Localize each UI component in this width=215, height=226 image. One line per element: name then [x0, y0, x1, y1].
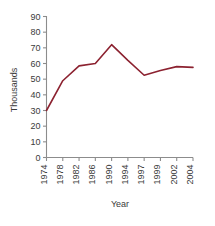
plot-area	[47, 45, 194, 111]
x-tick-label: 1997	[136, 165, 146, 185]
y-tick-label: 90	[30, 12, 40, 22]
x-tick-label: 1990	[104, 165, 114, 185]
y-tick-label: 10	[30, 137, 40, 147]
chart-container: 0102030405060708090 19741978198219861990…	[0, 0, 215, 226]
y-axis-title: Thousands	[9, 67, 19, 112]
y-tick-label: 30	[30, 106, 40, 116]
x-axis-title: Year	[111, 199, 129, 209]
data-series-line	[47, 45, 194, 111]
line-chart: 0102030405060708090 19741978198219861990…	[0, 0, 215, 226]
y-tick-label: 60	[30, 59, 40, 69]
y-tick-label: 70	[30, 43, 40, 53]
y-axis-tick-labels: 0102030405060708090	[30, 12, 40, 163]
x-tick-label: 1994	[120, 165, 130, 185]
x-tick-label: 1999	[152, 165, 162, 185]
x-tick-label: 1978	[55, 165, 65, 185]
y-tick-label: 20	[30, 121, 40, 131]
x-tick-label: 2002	[169, 165, 179, 185]
x-axis-tick-labels: 1974197819821986199019941997199920022004	[39, 165, 196, 185]
x-axis: 1974197819821986199019941997199920022004	[39, 158, 196, 185]
y-tick-label: 0	[35, 153, 40, 163]
x-tick-label: 1974	[39, 165, 49, 185]
y-tick-label: 80	[30, 27, 40, 37]
x-tick-label: 1982	[71, 165, 81, 185]
x-tick-label: 1986	[87, 165, 97, 185]
y-tick-label: 50	[30, 74, 40, 84]
y-axis: 0102030405060708090	[30, 12, 46, 163]
y-tick-label: 40	[30, 90, 40, 100]
x-tick-label: 2004	[185, 165, 195, 185]
